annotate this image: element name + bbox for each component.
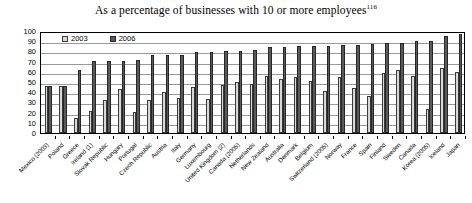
bar-2006 bbox=[151, 55, 155, 133]
bar-2006 bbox=[429, 41, 433, 133]
x-tick bbox=[421, 136, 422, 139]
bar-group bbox=[422, 33, 437, 133]
x-tick bbox=[231, 136, 232, 139]
y-tick-label: 100 bbox=[23, 28, 36, 36]
bar-2006 bbox=[224, 51, 228, 133]
bar-2006 bbox=[48, 86, 52, 133]
bar-2006 bbox=[312, 46, 316, 133]
x-tick bbox=[274, 136, 275, 139]
legend-item-2003: 2003 bbox=[62, 35, 88, 43]
x-tick bbox=[99, 136, 100, 139]
x-tick bbox=[157, 136, 158, 139]
bar-2006 bbox=[253, 50, 257, 133]
bar-group bbox=[202, 33, 217, 133]
bar-group bbox=[114, 33, 129, 133]
bar-2006 bbox=[107, 61, 111, 133]
bar-group bbox=[56, 33, 71, 133]
x-tick bbox=[216, 136, 217, 139]
y-tick-label: 60 bbox=[28, 69, 36, 77]
bar-2006 bbox=[356, 45, 360, 133]
bar-group bbox=[246, 33, 261, 133]
bar-2006 bbox=[459, 34, 463, 133]
bar-2006 bbox=[297, 46, 301, 133]
bar-2006 bbox=[444, 36, 448, 133]
y-tick-label: 10 bbox=[28, 120, 36, 128]
x-tick-label: Mexico (2003) bbox=[18, 141, 51, 174]
bar-2006 bbox=[341, 45, 345, 133]
bar-group bbox=[275, 33, 290, 133]
bar-2006 bbox=[385, 43, 389, 133]
y-axis: 1009080706050403020100 bbox=[14, 32, 38, 134]
page-title: As a percentage of businesses with 10 or… bbox=[0, 4, 472, 17]
bar-2006 bbox=[180, 55, 184, 133]
bar-group bbox=[232, 33, 247, 133]
bar-2006 bbox=[63, 86, 67, 133]
bar-2006 bbox=[195, 52, 199, 133]
legend-label-2003: 2003 bbox=[71, 35, 88, 43]
legend-item-2006: 2006 bbox=[110, 35, 136, 43]
bar-2006 bbox=[283, 47, 287, 133]
bar-group bbox=[70, 33, 85, 133]
bar-2006 bbox=[239, 51, 243, 133]
bar-2006 bbox=[166, 55, 170, 133]
x-tick-label: France bbox=[339, 141, 358, 160]
bar-group bbox=[349, 33, 364, 133]
y-tick-label: 20 bbox=[28, 110, 36, 118]
x-tick bbox=[392, 136, 393, 139]
x-tick bbox=[55, 136, 56, 139]
x-tick bbox=[436, 136, 437, 139]
bar-group bbox=[129, 33, 144, 133]
bar-2006 bbox=[371, 44, 375, 133]
x-tick bbox=[377, 136, 378, 139]
bar-group bbox=[378, 33, 393, 133]
y-tick-label: 0 bbox=[32, 130, 36, 138]
y-tick-label: 30 bbox=[28, 100, 36, 108]
bar-group bbox=[188, 33, 203, 133]
x-axis: Mexico (2003)PolandGreeceIreland (1)Slov… bbox=[40, 136, 465, 203]
x-tick bbox=[362, 136, 363, 139]
legend-swatch-2003-icon bbox=[62, 36, 68, 42]
bar-group bbox=[305, 33, 320, 133]
x-tick bbox=[143, 136, 144, 139]
x-tick bbox=[84, 136, 85, 139]
bar-group bbox=[173, 33, 188, 133]
x-tick-label: Japan bbox=[444, 141, 461, 158]
bar-group bbox=[261, 33, 276, 133]
bar-group bbox=[437, 33, 452, 133]
bar-group bbox=[158, 33, 173, 133]
x-tick bbox=[187, 136, 188, 139]
y-tick-label: 40 bbox=[28, 89, 36, 97]
bar-group bbox=[85, 33, 100, 133]
title-footnote-marker: 116 bbox=[366, 3, 377, 11]
x-tick bbox=[245, 136, 246, 139]
y-tick-label: 90 bbox=[28, 38, 36, 46]
legend-swatch-2006-icon bbox=[110, 36, 116, 42]
y-tick-label: 70 bbox=[28, 59, 36, 67]
bar-group bbox=[393, 33, 408, 133]
bar-group bbox=[100, 33, 115, 133]
x-tick bbox=[304, 136, 305, 139]
x-tick bbox=[260, 136, 261, 139]
chart-title-text: As a percentage of businesses with 10 or… bbox=[95, 4, 367, 16]
bar-2006 bbox=[268, 47, 272, 133]
bar-group bbox=[334, 33, 349, 133]
bar-group bbox=[290, 33, 305, 133]
bar-2006 bbox=[415, 41, 419, 133]
bars-layer bbox=[41, 33, 464, 133]
x-tick bbox=[450, 136, 451, 139]
x-tick bbox=[172, 136, 173, 139]
x-tick bbox=[318, 136, 319, 139]
bar-2006 bbox=[136, 60, 140, 133]
y-tick-label: 80 bbox=[28, 49, 36, 57]
bar-group bbox=[363, 33, 378, 133]
x-tick bbox=[333, 136, 334, 139]
bar-2006 bbox=[92, 61, 96, 133]
bar-group bbox=[407, 33, 422, 133]
bar-group bbox=[451, 33, 466, 133]
plot-area bbox=[40, 32, 465, 134]
chart-legend: 2003 2006 bbox=[62, 35, 135, 43]
x-tick bbox=[201, 136, 202, 139]
x-tick bbox=[289, 136, 290, 139]
bar-group bbox=[319, 33, 334, 133]
x-tick bbox=[113, 136, 114, 139]
